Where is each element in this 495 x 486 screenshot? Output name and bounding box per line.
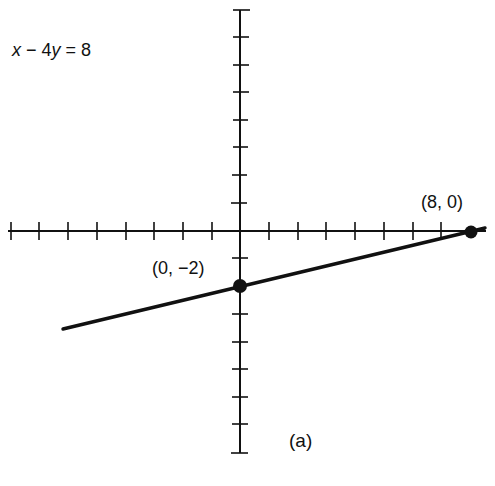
point-label-8-0: (8, 0) [421, 192, 463, 213]
coordinate-graph [0, 0, 495, 486]
point-0-neg2-marker [233, 279, 247, 293]
eq-rest: = 8 [61, 40, 92, 60]
point-8-0-marker [465, 226, 478, 239]
eq-op: − 4 [21, 40, 52, 60]
point-label-0-neg2: (0, −2) [152, 258, 205, 279]
eq-x: x [12, 40, 21, 60]
equation-label: x − 4y = 8 [12, 40, 91, 61]
eq-y: y [52, 40, 61, 60]
equation-line [63, 228, 485, 329]
figure-caption: (a) [289, 430, 312, 452]
